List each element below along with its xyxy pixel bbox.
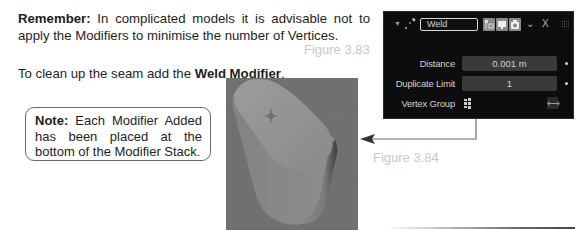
callout-line — [372, 119, 476, 139]
chevron-down-icon[interactable]: ⌄ — [526, 18, 534, 30]
modifier-name-input[interactable]: Weld — [420, 18, 478, 31]
render-toggle-icon[interactable] — [509, 18, 521, 31]
vertex-group-row: Vertex Group ⟷ — [384, 96, 573, 112]
vertex-group-icon[interactable] — [464, 98, 472, 109]
distance-field[interactable]: 0.001 m — [462, 56, 557, 71]
figure-label-3-83: Figure 3.83 — [304, 42, 370, 57]
weld-modifier-icon — [403, 17, 417, 31]
vertex-group-label: Vertex Group — [401, 98, 455, 109]
figure-label-3-84: Figure 3.84 — [373, 150, 439, 165]
modifier-header: ▼ Weld ⌄ X — [384, 12, 573, 38]
drag-handle-icon[interactable] — [562, 21, 570, 27]
note-label: Note: — [35, 113, 68, 128]
capsule-mesh-render — [226, 78, 358, 230]
duplicate-limit-label: Duplicate Limit — [396, 78, 455, 89]
triangle-down-icon[interactable]: ▼ — [394, 20, 401, 27]
viewport-display-toggle-icon[interactable] — [496, 18, 508, 31]
distance-label: Distance — [420, 58, 455, 69]
weld-intro: To clean up the seam add the — [18, 66, 195, 81]
arrowhead-icon — [360, 134, 375, 144]
3d-viewport-image — [226, 78, 358, 230]
grid-line — [316, 108, 358, 123]
weld-modifier-panel: ▼ Weld ⌄ X Distance 0.001 m Duplicate Li… — [383, 11, 574, 119]
duplicate-limit-row: Duplicate Limit 1 — [384, 76, 573, 92]
remember-label: Remember: — [18, 11, 91, 26]
edit-mode-toggle-icon[interactable] — [483, 18, 495, 31]
keyframe-dot-icon[interactable] — [565, 62, 568, 65]
remember-paragraph: Remember: In complicated models it is ad… — [18, 10, 370, 44]
close-icon[interactable]: X — [542, 18, 549, 30]
duplicate-limit-field[interactable]: 1 — [462, 76, 557, 91]
invert-vertex-group-button[interactable]: ⟷ — [547, 97, 558, 109]
note-box: Note: Each Modifier Added has been place… — [25, 107, 211, 161]
page-divider — [385, 227, 575, 229]
distance-row: Distance 0.001 m — [384, 56, 573, 72]
keyframe-dot-icon[interactable] — [565, 82, 568, 85]
